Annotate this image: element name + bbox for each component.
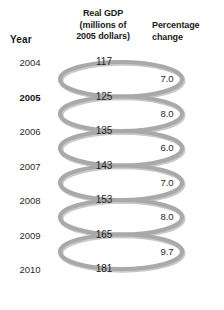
real-gdp-value-2008: 153 [82,194,126,205]
real-gdp-value-2004: 117 [82,56,126,67]
real-gdp-value-2007: 143 [82,160,126,171]
percentage-change-value-2004-2005: 7.0 [152,73,182,84]
year-value-2007: 2007 [6,161,54,172]
real-gdp-value-2010: 181 [82,263,126,274]
real-gdp-value-2006: 135 [82,125,126,136]
year-value-2008: 2008 [6,195,54,206]
gdp-growth-figure: Year Real GDP (millions of 2005 dollars)… [0,0,224,310]
year-value-2005: 2005 [6,92,54,103]
percentage-change-value-2008-2009: 8.0 [152,211,182,222]
real-gdp-value-2005: 125 [82,91,126,102]
year-value-2004: 2004 [6,57,54,68]
percentage-change-value-2007-2008: 7.0 [152,177,182,188]
year-value-2006: 2006 [6,126,54,137]
percentage-change-value-2006-2007: 6.0 [152,142,182,153]
percentage-change-value-2005-2006: 8.0 [152,108,182,119]
real-gdp-value-2009: 165 [82,229,126,240]
year-value-2010: 2010 [6,264,54,275]
year-value-2009: 2009 [6,230,54,241]
percentage-change-value-2009-2010: 9.7 [152,246,182,257]
